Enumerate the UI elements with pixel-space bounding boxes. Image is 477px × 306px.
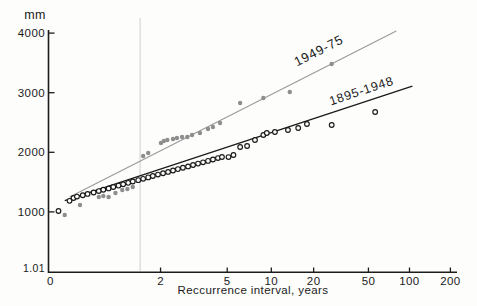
data-point-1949-75 xyxy=(63,213,67,217)
data-point-1949-75 xyxy=(97,195,101,199)
data-point-1949-75 xyxy=(165,138,169,142)
data-point-1949-75 xyxy=(125,187,129,191)
data-point-1895-1948 xyxy=(238,145,243,150)
data-point-1895-1948 xyxy=(264,131,269,136)
data-point-1949-75 xyxy=(101,194,105,198)
y-tick-label: 2000 xyxy=(18,146,45,158)
data-point-1949-75 xyxy=(78,203,82,207)
data-point-1949-75 xyxy=(120,188,124,192)
data-point-1895-1948 xyxy=(136,178,141,183)
x-tick-label: 100 xyxy=(399,275,419,287)
data-point-1895-1948 xyxy=(91,190,96,195)
data-point-1895-1948 xyxy=(296,126,301,131)
data-point-1949-75 xyxy=(146,151,150,155)
data-point-1895-1948 xyxy=(201,160,206,165)
data-point-1949-75 xyxy=(185,135,189,139)
data-point-1949-75 xyxy=(218,121,222,125)
data-point-1895-1948 xyxy=(273,130,278,135)
data-point-1895-1948 xyxy=(56,209,61,214)
data-point-1895-1948 xyxy=(176,167,181,172)
data-point-1895-1948 xyxy=(101,187,106,192)
y-tick-label: 1000 xyxy=(18,206,45,218)
data-point-1895-1948 xyxy=(106,186,111,191)
data-point-1949-75 xyxy=(329,62,333,66)
data-point-1949-75 xyxy=(190,133,194,137)
data-point-1895-1948 xyxy=(130,179,135,184)
data-point-1895-1948 xyxy=(253,138,258,143)
data-point-1895-1948 xyxy=(305,122,310,127)
x-axis-title: Reccurrence interval, years xyxy=(128,284,378,296)
data-point-1895-1948 xyxy=(146,175,151,180)
data-point-1949-75 xyxy=(238,101,242,105)
data-point-1949-75 xyxy=(131,185,135,189)
data-point-1949-75 xyxy=(180,135,184,139)
data-point-1895-1948 xyxy=(156,172,161,177)
data-point-1895-1948 xyxy=(166,170,171,175)
data-point-1895-1948 xyxy=(116,183,121,188)
x-origin-label: 0 xyxy=(47,275,54,287)
data-point-1895-1948 xyxy=(171,168,176,173)
data-point-1949-75 xyxy=(106,195,110,199)
y-tick-label: 3000 xyxy=(18,87,45,99)
data-point-1895-1948 xyxy=(141,176,146,181)
data-point-1949-75 xyxy=(141,154,145,158)
data-point-1895-1948 xyxy=(121,182,126,187)
data-point-1895-1948 xyxy=(150,174,155,179)
data-point-1895-1948 xyxy=(196,161,201,166)
data-point-1895-1948 xyxy=(220,155,225,160)
data-point-1895-1948 xyxy=(373,110,378,115)
y-tick-label: 4000 xyxy=(18,27,45,39)
data-point-1895-1948 xyxy=(286,128,291,133)
axes xyxy=(49,30,458,272)
data-point-1895-1948 xyxy=(161,171,166,176)
data-point-1895-1948 xyxy=(329,123,334,128)
data-point-1895-1948 xyxy=(206,159,211,164)
data-point-1949-75 xyxy=(261,96,265,100)
data-point-1895-1948 xyxy=(75,194,80,199)
trend-line-1949-75 xyxy=(70,31,397,197)
data-point-1895-1948 xyxy=(80,193,85,198)
x-tick-label: 200 xyxy=(440,275,460,287)
data-point-1949-75 xyxy=(113,191,117,195)
y-axis-unit-label: mm xyxy=(14,8,46,22)
data-point-1895-1948 xyxy=(226,155,231,160)
chart-canvas: 40003000200010001.01251020501002000 xyxy=(0,0,477,306)
data-point-1949-75 xyxy=(198,131,202,135)
data-point-1895-1948 xyxy=(191,163,196,168)
data-point-1949-75 xyxy=(175,136,179,140)
data-point-1895-1948 xyxy=(245,144,250,149)
data-point-1949-75 xyxy=(206,127,210,131)
data-point-1895-1948 xyxy=(231,153,236,158)
rainfall-frequency-chart: 40003000200010001.01251020501002000 mm 1… xyxy=(0,0,477,306)
data-point-1949-75 xyxy=(171,137,175,141)
data-point-1895-1948 xyxy=(111,185,116,190)
data-point-1895-1948 xyxy=(186,164,191,169)
data-point-1949-75 xyxy=(288,90,292,94)
data-point-1895-1948 xyxy=(85,192,90,197)
data-point-1895-1948 xyxy=(181,165,186,170)
data-point-1895-1948 xyxy=(211,157,216,162)
data-point-1949-75 xyxy=(211,125,215,129)
y-axis-bottom-label: 1.01 xyxy=(23,262,45,274)
